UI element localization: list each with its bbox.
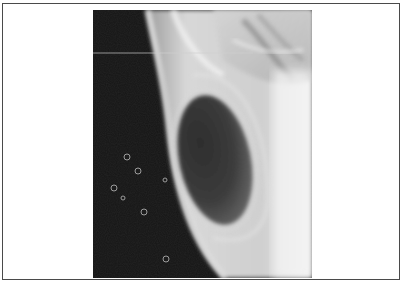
radiograph-image — [93, 10, 312, 278]
xray-illustration — [93, 10, 312, 278]
